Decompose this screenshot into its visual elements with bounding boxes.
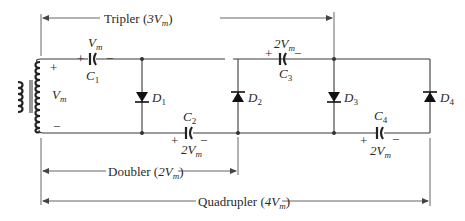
svg-text:C4: C4 xyxy=(374,108,388,125)
junction-dot xyxy=(332,57,336,61)
svg-text:C3: C3 xyxy=(279,66,293,83)
wiring xyxy=(41,57,430,135)
svg-text:D4: D4 xyxy=(439,90,454,107)
svg-text:−: − xyxy=(294,46,301,61)
capacitor-c2: C2 + − 2Vm xyxy=(171,109,207,159)
svg-text:D3: D3 xyxy=(343,90,358,107)
primary-coil-icon xyxy=(18,82,23,112)
diode-d3: D3 xyxy=(327,90,358,107)
capacitor-c3: + − 2Vm C3 xyxy=(265,36,301,83)
svg-text:+: + xyxy=(171,133,178,148)
diode-up-icon xyxy=(424,92,436,102)
diode-up-icon xyxy=(232,92,244,102)
diode-down-icon xyxy=(136,92,148,102)
svg-text:−: − xyxy=(392,132,399,147)
diode-d2: D2 xyxy=(231,90,262,107)
source-minus: − xyxy=(53,119,60,134)
secondary-coil-icon xyxy=(36,62,41,132)
tripler-quadrupler-circuit: Tripler (3Vm) + Vm − + xyxy=(0,0,465,221)
svg-text:+: + xyxy=(265,46,272,61)
tripler-label: Tripler (3Vm) xyxy=(104,11,173,28)
svg-text:D1: D1 xyxy=(151,90,166,107)
capacitor-c1: + − Vm C1 xyxy=(77,35,113,85)
svg-text:D2: D2 xyxy=(247,90,262,107)
junction-dot xyxy=(236,131,240,135)
svg-text:+: + xyxy=(360,133,367,148)
source-plus: + xyxy=(50,60,57,75)
doubler-label: Doubler (2Vm) xyxy=(108,164,184,181)
junction-dot xyxy=(332,131,336,135)
junction-dot xyxy=(140,57,144,61)
junction-dot xyxy=(140,131,144,135)
diode-d1: D1 xyxy=(135,90,166,107)
transformer: + Vm − xyxy=(18,59,67,134)
svg-text:−: − xyxy=(200,133,207,148)
svg-text:2Vm: 2Vm xyxy=(370,143,391,160)
diode-d4: D4 xyxy=(423,90,454,107)
svg-text:Vm: Vm xyxy=(88,35,103,52)
svg-text:2Vm: 2Vm xyxy=(274,36,295,53)
svg-text:+: + xyxy=(77,51,84,66)
capacitor-c4: C4 + − 2Vm xyxy=(360,108,399,160)
svg-text:C2: C2 xyxy=(183,109,196,126)
source-voltage-label: Vm xyxy=(52,87,67,104)
svg-text:C1: C1 xyxy=(86,68,99,85)
quadrupler-label: Quadrupler (4Vm) xyxy=(198,194,290,211)
diode-down-icon xyxy=(328,92,340,102)
svg-text:−: − xyxy=(106,51,113,66)
